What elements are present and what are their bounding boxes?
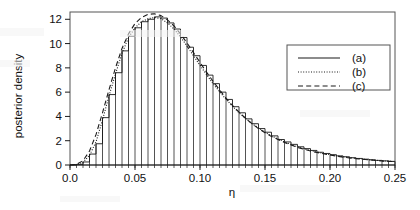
y-tick-label: 12: [49, 13, 62, 25]
x-tick-label: 0.20: [319, 172, 341, 184]
y-tick-label: 4: [56, 110, 63, 122]
y-tick-label: 2: [56, 135, 62, 147]
x-tick-label: 0.10: [189, 172, 211, 184]
legend-label-a: (a): [352, 52, 366, 64]
x-tick-label: 0.25: [384, 172, 406, 184]
y-tick-label: 8: [56, 62, 62, 74]
figure-container: 0.00.050.100.150.200.25 024681012 η post…: [0, 0, 420, 210]
x-tick-label: 0.0: [62, 172, 78, 184]
legend-label-c: (c): [352, 80, 366, 92]
x-tick-label: 0.15: [254, 172, 276, 184]
legend: (a)(b)(c): [287, 45, 390, 92]
legend-label-b: (b): [352, 66, 366, 78]
x-tick-label: 0.05: [124, 172, 146, 184]
y-tick-label: 6: [56, 86, 62, 98]
posterior-density-chart: 0.00.050.100.150.200.25 024681012 η post…: [0, 0, 420, 210]
legend-box: [287, 45, 390, 90]
y-tick-label: 10: [49, 38, 62, 50]
y-tick-label: 0: [56, 159, 62, 171]
x-axis-title: η: [229, 186, 235, 198]
y-axis-title: posterior density: [12, 54, 24, 139]
